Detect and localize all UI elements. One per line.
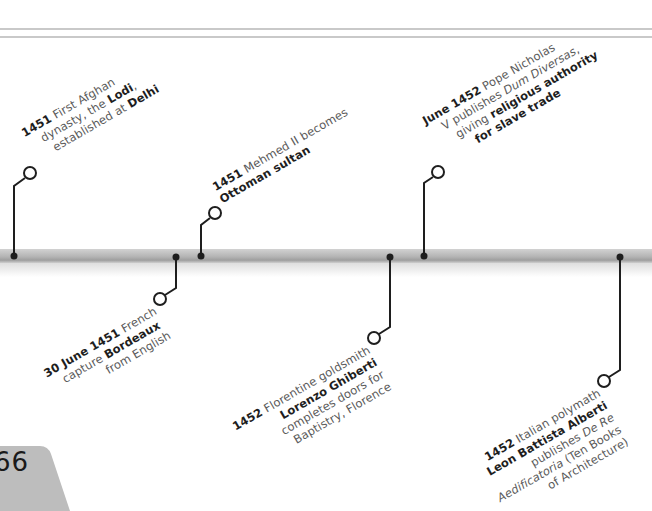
timeline-dot-icon	[421, 253, 428, 260]
timeline-dot-icon	[173, 254, 180, 261]
marker-circle-icon	[598, 375, 610, 387]
connector-bordeaux	[154, 257, 176, 305]
connector-mehmed	[201, 207, 221, 256]
marker-circle-icon	[209, 207, 221, 219]
marker-circle-icon	[432, 166, 444, 178]
timeline-dot-icon	[617, 254, 624, 261]
connector-alberti	[598, 257, 620, 387]
connector-ghiberti	[368, 257, 390, 344]
marker-circle-icon	[368, 332, 380, 344]
timeline-dot-icon	[198, 253, 205, 260]
connector-dum-diversas	[424, 166, 444, 256]
connector-lodi	[14, 167, 36, 256]
timeline-dot-icon	[387, 254, 394, 261]
marker-circle-icon	[154, 293, 166, 305]
timeline-dot-icon	[11, 253, 18, 260]
marker-circle-icon	[24, 167, 36, 179]
page-number: 66	[0, 447, 29, 477]
